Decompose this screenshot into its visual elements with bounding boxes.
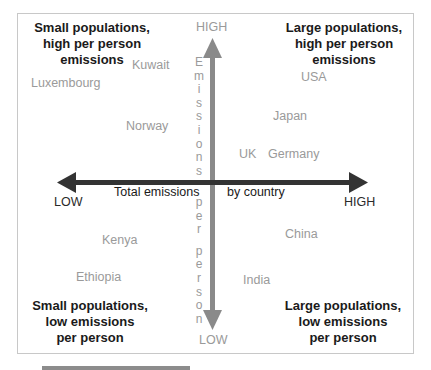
bottom-divider-bar (42, 366, 190, 370)
quadrant-title-bottom-left: Small populations, low emissions per per… (20, 298, 160, 346)
country-label-uk: UK (239, 147, 256, 161)
vertical-axis-caption-lower: p e r p e r s o n (194, 196, 204, 326)
horizontal-axis-caption-left: Total emissions (114, 185, 199, 199)
vertical-axis-low-label: LOW (199, 333, 227, 347)
country-label-china: China (285, 227, 318, 241)
quadrant-title-bottom-right: Large populations, low emissions per per… (272, 298, 414, 346)
country-label-kuwait: Kuwait (132, 58, 170, 72)
country-label-kenya: Kenya (102, 233, 137, 247)
country-label-japan: Japan (273, 109, 307, 123)
country-label-india: India (243, 273, 270, 287)
country-label-norway: Norway (126, 119, 168, 133)
country-label-germany: Germany (268, 147, 319, 161)
country-label-ethiopia: Ethiopia (76, 270, 121, 284)
horizontal-axis-low-label: LOW (54, 195, 82, 209)
vertical-axis-high-label: HIGH (196, 20, 227, 34)
horizontal-axis-high-label: HIGH (344, 195, 375, 209)
quadrant-title-top-right: Large populations, high per person emiss… (274, 20, 414, 68)
country-label-luxembourg: Luxembourg (31, 76, 101, 90)
horizontal-axis-caption-right: by country (227, 185, 285, 199)
vertical-axis-caption-upper: E m i s s i o n s (194, 56, 204, 178)
country-label-usa: USA (301, 70, 327, 84)
